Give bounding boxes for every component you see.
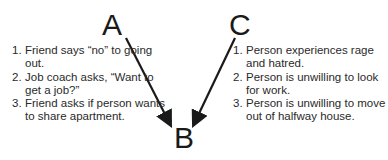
arrow-c-to-b [194,38,235,124]
right-list-item: 3.Person is unwilling to move out of hal… [233,97,388,124]
right-list: 1.Person experiences rage and hatred. 2.… [233,44,388,124]
left-list-item: 1.Friend says “no” to going out. [12,44,172,71]
node-a: A [102,10,122,40]
right-list-item: 2.Person is unwilling to look for work. [233,71,388,98]
node-c: C [229,10,251,40]
left-list-item: 2.Job coach asks, “Want to get a job?” [12,71,172,98]
node-b: B [174,123,194,153]
left-list: 1.Friend says “no” to going out. 2.Job c… [12,44,172,124]
left-list-item: 3.Friend asks if person wants to share a… [12,97,172,124]
right-list-item: 1.Person experiences rage and hatred. [233,44,388,71]
